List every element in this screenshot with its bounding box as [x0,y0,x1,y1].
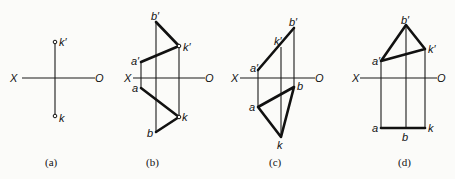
top-view-polyline [141,88,179,132]
label-a-prime: a′ [131,55,140,67]
label-b: b [297,80,303,92]
panel-c: X O b′ k′ a′ a b k (c) [230,16,324,169]
label-k-prime: k′ [183,41,192,53]
axis-label-x: X [123,72,132,84]
point-k-marker [177,115,181,119]
label-k-prime: k′ [59,36,68,48]
top-view-triangle [258,87,294,137]
label-b: b [147,127,153,139]
label-b-prime: b′ [289,16,298,28]
caption-b: (b) [146,156,159,169]
label-k: k [59,112,65,124]
label-a: a [132,82,138,94]
panel-b: X O b′ k′ a′ a k b (b) [123,10,214,169]
label-b: b [402,131,408,143]
label-b-prime: b′ [401,14,410,26]
label-k: k [428,122,434,134]
label-k: k [182,111,188,123]
panel-a: X O k′ k (a) [9,36,104,169]
label-k: k [277,139,283,151]
caption-d: (d) [398,156,411,169]
point-k-prime-marker [177,44,181,48]
front-view-polyline [141,22,179,62]
point-k-marker [53,114,57,118]
figure-svg: X O k′ k (a) X O b′ k′ a′ a k b (b) X O … [0,0,455,179]
axis-label-x: X [9,72,18,84]
caption-a: (a) [45,156,58,169]
axis-label-x: X [351,72,360,84]
axis-label-o: O [95,72,104,84]
caption-c: (c) [269,156,282,169]
label-a-prime: a′ [372,55,381,67]
axis-label-x: X [230,72,239,84]
label-b-prime: b′ [151,10,160,22]
label-k-prime: k′ [428,43,437,55]
orthographic-projection-figure: X O k′ k (a) X O b′ k′ a′ a k b (b) X O … [0,0,455,179]
point-k-prime-marker [53,40,57,44]
axis-label-o: O [315,72,324,84]
axis-label-o: O [205,72,214,84]
panel-d: X O b′ k′ a′ a b k (d) [351,14,446,169]
axis-label-o: O [437,72,446,84]
label-k-prime: k′ [274,35,283,47]
label-a: a [249,101,255,113]
front-view-triangle [381,25,425,61]
label-a: a [372,122,378,134]
label-a-prime: a′ [250,62,259,74]
